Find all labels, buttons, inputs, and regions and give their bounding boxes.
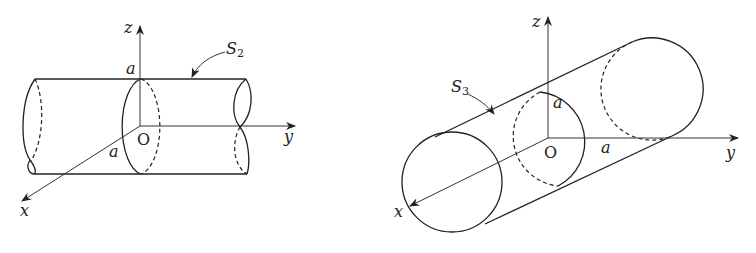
left-end-front-curve <box>23 79 35 174</box>
radius-label-y: a <box>601 138 611 157</box>
cross-section-hidden <box>513 92 558 186</box>
origin-label: O <box>544 143 557 162</box>
surface-pointer-arrow <box>192 52 225 77</box>
x-axis-label: x <box>20 201 29 220</box>
z-axis-label: z <box>531 12 541 31</box>
z-axis-label: z <box>123 18 133 37</box>
diagram-canvas: z y x O a a S2 z y x O a a S3 <box>0 0 756 253</box>
right-figure: z y x O a a S3 <box>394 12 738 232</box>
origin-label: O <box>137 130 150 149</box>
radius-label-z: a <box>553 93 563 112</box>
back-end-circle-visible <box>632 38 703 136</box>
surface-label: S2 <box>226 39 244 60</box>
radius-label-z: a <box>126 59 136 78</box>
right-end-curve-b <box>240 79 251 127</box>
left-end-hidden-curve <box>31 79 42 161</box>
y-axis-label: y <box>283 127 294 146</box>
cylinder-bottom-edge <box>485 136 672 224</box>
radius-label-x: a <box>109 142 119 161</box>
x-axis <box>410 138 548 206</box>
back-end-circle-hidden <box>601 42 672 140</box>
x-axis-label: x <box>394 202 403 221</box>
y-axis-label: y <box>725 143 736 162</box>
right-end-hidden-curve <box>235 127 247 174</box>
front-end-circle <box>402 132 502 232</box>
left-figure: z y x O a a S2 <box>20 18 295 220</box>
cross-section-front <box>122 79 141 174</box>
surface-label: S3 <box>451 77 469 98</box>
